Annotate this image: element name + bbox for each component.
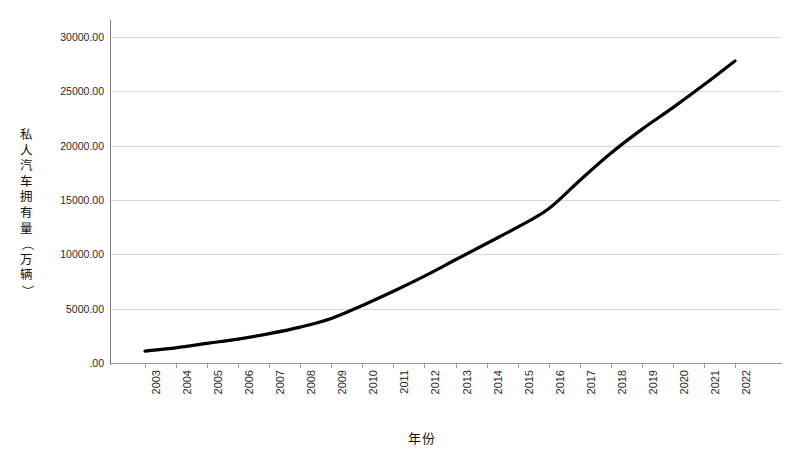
x-tick-mark xyxy=(362,363,363,368)
x-tick-label: 2006 xyxy=(243,370,255,394)
x-tick-mark xyxy=(176,363,177,368)
x-tick-mark xyxy=(207,363,208,368)
x-tick-mark xyxy=(611,363,612,368)
x-tick-mark xyxy=(393,363,394,368)
x-tick-label: 2020 xyxy=(678,370,690,394)
x-tick-mark xyxy=(549,363,550,368)
series-path xyxy=(145,61,735,351)
x-tick-label: 2022 xyxy=(740,370,752,394)
x-tick-label: 2011 xyxy=(398,370,410,394)
x-tick-label: 2004 xyxy=(181,370,193,394)
x-tick-mark xyxy=(331,363,332,368)
x-tick-label: 2018 xyxy=(616,370,628,394)
x-tick-mark xyxy=(580,363,581,368)
x-tick-label: 2013 xyxy=(461,370,473,394)
x-tick-label: 2016 xyxy=(554,370,566,394)
x-tick-mark xyxy=(735,363,736,368)
x-tick-label: 2019 xyxy=(647,370,659,394)
x-tick-mark xyxy=(487,363,488,368)
chart-figure: 私人汽车拥有量（万辆） .005000.0010000.0015000.0020… xyxy=(0,0,803,469)
x-tick-label: 2003 xyxy=(150,370,162,394)
x-axis-title: 年份 xyxy=(0,428,803,447)
x-tick-mark xyxy=(424,363,425,368)
x-tick-label: 2008 xyxy=(305,370,317,394)
x-tick-label: 2021 xyxy=(709,370,721,394)
x-tick-label: 2007 xyxy=(274,370,286,394)
x-tick-label: 2012 xyxy=(429,370,441,394)
x-tick-mark xyxy=(673,363,674,368)
x-tick-mark xyxy=(518,363,519,368)
x-axis-ticks: 2003200420052006200720082009201020112012… xyxy=(0,368,803,428)
x-tick-label: 2017 xyxy=(585,370,597,394)
x-tick-mark xyxy=(704,363,705,368)
x-tick-mark xyxy=(300,363,301,368)
x-tick-mark xyxy=(456,363,457,368)
x-tick-label: 2005 xyxy=(212,370,224,394)
x-tick-mark xyxy=(269,363,270,368)
x-tick-mark xyxy=(642,363,643,368)
x-tick-mark xyxy=(238,363,239,368)
x-tick-mark xyxy=(145,363,146,368)
x-tick-label: 2009 xyxy=(336,370,348,394)
x-tick-label: 2014 xyxy=(492,370,504,394)
x-tick-label: 2015 xyxy=(523,370,535,394)
x-axis-title-text: 年份 xyxy=(408,431,436,446)
x-tick-label: 2010 xyxy=(367,370,379,394)
